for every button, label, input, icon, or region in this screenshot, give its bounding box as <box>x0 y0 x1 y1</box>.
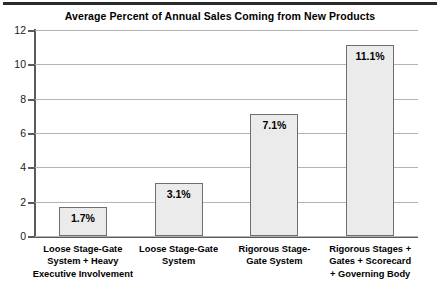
bar-value-label: 7.1% <box>251 119 297 131</box>
x-axis-category-labels: Loose Stage-GateSystem + HeavyExecutive … <box>35 243 418 291</box>
gridline <box>35 30 418 31</box>
y-axis-tick-label: 4 <box>0 162 26 173</box>
chart-container: Average Percent of Annual Sales Coming f… <box>0 0 440 293</box>
bar-value-label: 1.7% <box>60 212 106 224</box>
bar-value-label: 3.1% <box>156 188 202 200</box>
y-axis-tick-mark <box>28 202 35 204</box>
y-axis-tick-mark <box>28 167 35 169</box>
y-axis-tick-mark <box>28 236 35 238</box>
y-axis-tick-labels: 024681012 <box>0 0 26 293</box>
category-label-line: Loose Stage-Gate <box>127 243 231 255</box>
bar: 3.1% <box>155 183 203 236</box>
chart-title: Average Percent of Annual Sales Coming f… <box>0 10 440 22</box>
bar-value-label: 11.1% <box>347 50 393 62</box>
bar: 11.1% <box>346 45 394 236</box>
category-label-line: Executive Involvement <box>31 268 135 280</box>
y-axis-tick-label: 12 <box>0 25 26 36</box>
category-label-line: Rigorous Stages + <box>318 243 422 255</box>
gridline <box>35 236 418 237</box>
y-axis-tick-mark <box>28 64 35 66</box>
y-axis-tick-label: 2 <box>0 197 26 208</box>
y-axis-tick-label: 8 <box>0 94 26 105</box>
y-axis-tick-label: 6 <box>0 128 26 139</box>
category-label-line: Gates + Scorecard <box>318 255 422 267</box>
category-label-line: System <box>127 255 231 267</box>
category-label-line: Rigorous Stage- <box>222 243 326 255</box>
category-label-line: System + Heavy <box>31 255 135 267</box>
x-axis-category-label: Rigorous Stage-Gate System <box>222 243 326 268</box>
y-axis-tick-label: 10 <box>0 59 26 70</box>
plot-area: 1.7%3.1%7.1%11.1% <box>35 30 418 236</box>
category-label-line: Loose Stage-Gate <box>31 243 135 255</box>
x-axis-category-label: Loose Stage-GateSystem + HeavyExecutive … <box>31 243 135 280</box>
x-axis-category-label: Rigorous Stages +Gates + Scorecard+ Gove… <box>318 243 422 280</box>
y-axis-tick-mark <box>28 30 35 32</box>
bar: 1.7% <box>59 207 107 236</box>
category-label-line: + Governing Body <box>318 268 422 280</box>
y-axis-tick-label: 0 <box>0 231 26 242</box>
bar: 7.1% <box>250 114 298 236</box>
y-axis-tick-mark <box>28 99 35 101</box>
y-axis-tick-mark <box>28 133 35 135</box>
top-divider-rule <box>3 2 437 5</box>
category-label-line: Gate System <box>222 255 326 267</box>
x-axis-category-label: Loose Stage-GateSystem <box>127 243 231 268</box>
